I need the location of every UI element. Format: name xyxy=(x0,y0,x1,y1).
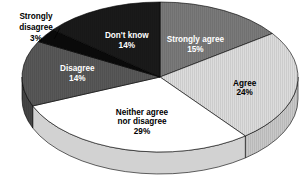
callout-label-line1: Strongly xyxy=(19,12,53,21)
pie-chart-figure: Strongly agree15%Agree24%Neither agreeno… xyxy=(0,0,300,181)
pie-slices xyxy=(22,2,298,152)
callout-label-line2: disagree xyxy=(19,23,53,32)
callout-label-value: 3% xyxy=(30,34,43,43)
pie-chart-svg: Strongly agree15%Agree24%Neither agreeno… xyxy=(0,0,300,181)
